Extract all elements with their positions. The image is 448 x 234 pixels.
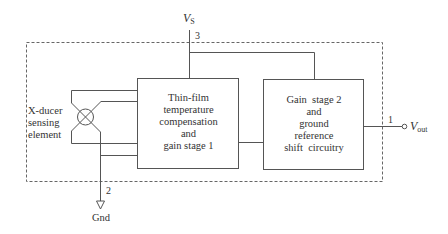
ground-arrow-icon	[97, 201, 105, 209]
block1-label: Thin-film temperature compensation and g…	[138, 92, 239, 152]
output-terminal-icon	[402, 124, 407, 129]
supply-pin-number: 3	[195, 31, 200, 41]
supply-wire	[190, 30, 315, 80]
sensing-element-icon	[72, 91, 138, 202]
ground-pin-number: 2	[106, 186, 111, 196]
output-pin-number: 1	[388, 115, 393, 125]
output-label: Vout	[410, 120, 428, 134]
ground-label: Gnd	[92, 213, 110, 224]
supply-label: VS	[183, 12, 195, 26]
sensing-element-label: X-ducer sensing element	[28, 105, 68, 141]
block2-label: Gain stage 2 and ground reference shift …	[264, 94, 364, 154]
